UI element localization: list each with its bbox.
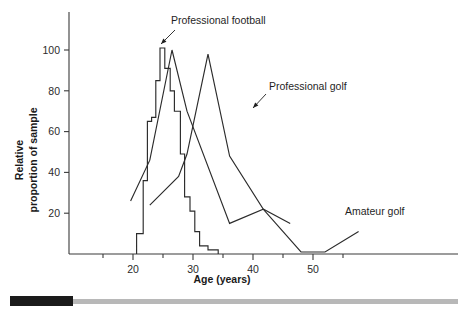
y-axis-title-line2: proportion of sample [27, 107, 39, 212]
y-tick-label: 40 [48, 166, 60, 178]
y-tick-label: 80 [48, 85, 60, 97]
chart-figure: 20406080100 20304050 Age (years) Relativ… [0, 0, 463, 290]
chart-annotations-group: Professional footballProfessional golfAm… [161, 14, 405, 217]
y-tick-label: 60 [48, 125, 60, 137]
x-axis-ticks [103, 254, 343, 260]
chart-axes: 20406080100 20304050 [42, 12, 458, 275]
y-axis-ticks [64, 50, 69, 213]
y-tick-label: 100 [42, 44, 60, 56]
series-professional-football [137, 48, 219, 254]
x-tick-label: 20 [127, 263, 139, 275]
chart-canvas: 20406080100 20304050 Age (years) Relativ… [0, 0, 463, 290]
annotation-label-professional-golf: Professional golf [269, 80, 347, 92]
y-axis-tick-labels: 20406080100 [42, 44, 60, 219]
scrollbar-thumb[interactable] [10, 296, 73, 306]
x-axis-title: Age (years) [193, 273, 250, 285]
annotation-label-amateur-golf: Amateur golf [345, 205, 405, 217]
x-tick-label: 50 [307, 263, 319, 275]
chart-series-group [131, 48, 359, 254]
annotation-label-professional-football: Professional football [171, 14, 266, 26]
y-tick-label: 20 [48, 207, 60, 219]
scrollbar-track[interactable] [10, 299, 458, 304]
y-axis-title-line1: Relative [13, 140, 25, 180]
